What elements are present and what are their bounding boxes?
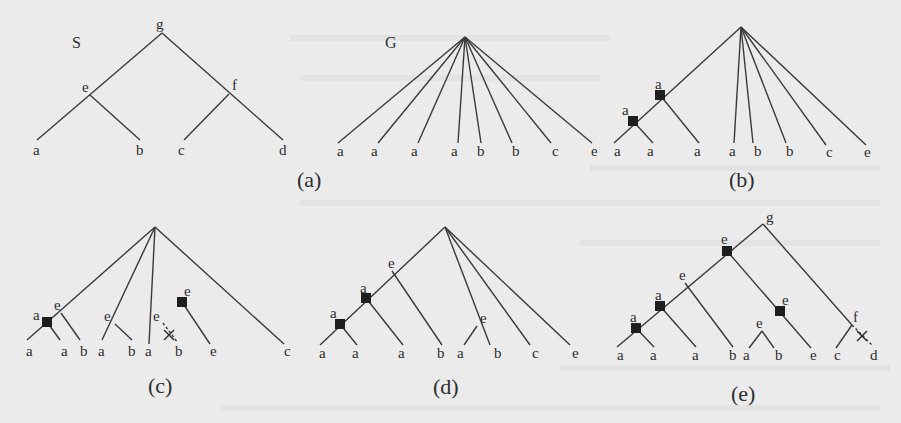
leaf-label: b	[437, 345, 445, 361]
leaf-label: a	[145, 343, 152, 359]
leaf-label: b	[128, 343, 136, 359]
tree-edge	[660, 306, 696, 347]
node-label: a	[360, 280, 367, 296]
node-label: a	[655, 287, 662, 303]
tree-edge	[418, 37, 465, 143]
tree-edge	[734, 27, 741, 143]
leaf-label: a	[371, 143, 378, 159]
tree-c: eaeeeaabababec(c)	[26, 227, 291, 398]
tree-edge	[727, 251, 811, 348]
node-label: e	[104, 308, 111, 324]
node-label: e	[388, 255, 395, 271]
node-label: g	[766, 209, 774, 225]
tree-edge	[762, 331, 774, 348]
tree-edge	[465, 37, 512, 143]
leaf-label: a	[457, 345, 464, 361]
duplication-square-icon	[42, 317, 52, 327]
duplication-square-icon	[628, 116, 638, 126]
node-label: a	[630, 309, 637, 325]
tree-edge	[115, 324, 132, 340]
node-label: e	[679, 267, 686, 283]
leaf-label: b	[477, 143, 485, 159]
tree-edge	[162, 33, 283, 140]
leaf-label: b	[136, 142, 144, 158]
leaf-label: b	[754, 143, 762, 159]
subfigure-caption: (d)	[433, 374, 459, 399]
subfigure-caption: (e)	[731, 381, 755, 406]
leaf-label: a	[98, 343, 105, 359]
leaf-label: a	[352, 345, 359, 361]
node-label: a	[622, 102, 629, 118]
leaf-label: e	[591, 143, 598, 159]
tree-edge	[184, 94, 229, 140]
node-label: a	[33, 307, 40, 323]
tree-S: gefabcdS	[33, 16, 287, 158]
leaf-label: b	[775, 347, 783, 363]
tree-edge	[465, 37, 592, 143]
leaf-label: a	[33, 142, 40, 158]
leaf-label: c	[834, 347, 841, 363]
node-label: e	[153, 308, 160, 324]
leaf-label: c	[178, 142, 185, 158]
node-label: e	[480, 310, 487, 326]
tree-edge	[37, 33, 162, 140]
tree-edge	[458, 37, 465, 143]
leaf-label: a	[647, 143, 654, 159]
tree-d: eaaeaaababce(d)	[319, 227, 579, 399]
tree-edge	[445, 227, 570, 345]
leaf-label: a	[650, 347, 657, 363]
leaf-label: a	[319, 345, 326, 361]
tree-edge	[741, 27, 826, 145]
leaf-label: a	[694, 143, 701, 159]
tree-edge	[338, 37, 465, 143]
leaf-label: e	[810, 347, 817, 363]
node-label: f	[232, 77, 237, 93]
node-label: e	[721, 231, 728, 247]
node-label: g	[156, 16, 164, 32]
tree-edge	[660, 95, 699, 143]
tree-edge	[741, 27, 866, 145]
leaf-label: b	[80, 343, 88, 359]
tree-edge	[445, 227, 490, 345]
tree-edge	[61, 313, 80, 340]
duplication-square-icon	[722, 246, 732, 256]
node-label: a	[655, 76, 662, 92]
leaf-label: a	[743, 347, 750, 363]
tree-edge	[464, 326, 477, 345]
leaf-label: a	[451, 143, 458, 159]
leaf-label: e	[210, 343, 217, 359]
tree-edge	[836, 325, 852, 348]
leaf-label: b	[512, 143, 520, 159]
leaf-label: a	[617, 347, 624, 363]
leaf-label: a	[26, 343, 33, 359]
node-label: e	[756, 315, 763, 331]
leaf-label: a	[411, 143, 418, 159]
tree-edge	[366, 298, 403, 345]
leaf-label: d	[870, 347, 878, 363]
leaf-label: b	[175, 343, 183, 359]
tree-edge	[741, 27, 786, 143]
leaf-label: c	[826, 144, 833, 160]
node-label: e	[782, 292, 789, 308]
tree-edge	[392, 271, 442, 345]
subfigure-caption: (a)	[297, 167, 321, 192]
leaf-label: e	[572, 345, 579, 361]
leaf-label: a	[729, 143, 736, 159]
node-label: e	[184, 283, 191, 299]
tree-name-label: G	[385, 34, 397, 51]
reconciliation-figure: gefabcdSaaaabbceG(a)aaaaaabbce(b)eaeeeaa…	[0, 0, 901, 423]
tree-edge	[182, 302, 210, 344]
tree-edge	[149, 227, 155, 344]
tree-edge	[685, 283, 733, 347]
leaf-label: a	[614, 143, 621, 159]
tree-diagram-svg: gefabcdSaaaabbceG(a)aaaaaabbce(b)eaeeeaa…	[0, 0, 901, 423]
tree-e: geeaaeefaaababecd(e)	[617, 209, 878, 406]
node-label: e	[54, 297, 61, 313]
subfigure-caption: (c)	[148, 373, 172, 398]
tree-G: aaaabbceG(a)	[297, 34, 598, 192]
leaf-label: a	[337, 143, 344, 159]
leaf-label: a	[61, 343, 68, 359]
leaf-label: b	[786, 143, 794, 159]
leaf-label: b	[729, 347, 737, 363]
leaf-label: d	[279, 142, 287, 158]
